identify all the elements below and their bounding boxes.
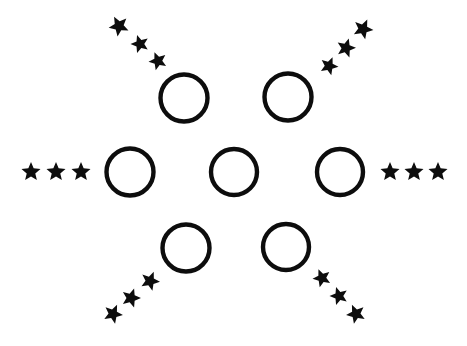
star-icon <box>119 286 143 309</box>
star-trail-lower-right <box>310 266 368 325</box>
star-icon <box>343 301 368 325</box>
circle-mid-left <box>107 149 154 196</box>
star-icon <box>318 54 341 77</box>
circles-layer <box>107 74 364 272</box>
stars-layer <box>21 12 447 325</box>
star-icon <box>404 162 423 180</box>
star-trail-left <box>21 162 90 180</box>
circle-top-right <box>265 74 312 121</box>
star-icon <box>46 162 65 180</box>
star-icon <box>327 284 350 306</box>
star-icon <box>105 12 132 38</box>
star-trail-right <box>380 162 447 180</box>
star-icon <box>101 301 126 325</box>
star-icon <box>428 162 447 180</box>
circle-center <box>211 149 257 195</box>
star-trail-upper-left <box>105 12 169 71</box>
circle-mid-right <box>317 149 363 195</box>
star-icon <box>71 162 90 180</box>
star-icon <box>380 162 399 180</box>
star-icon <box>350 15 376 40</box>
star-trail-upper-right <box>318 15 377 76</box>
figure-svg <box>0 0 467 346</box>
star-icon <box>146 49 169 72</box>
star-icon <box>21 162 40 180</box>
figure-canvas <box>0 0 467 346</box>
circle-top-left <box>161 75 208 122</box>
star-icon <box>335 36 358 59</box>
star-icon <box>128 32 151 54</box>
circle-bottom-right <box>263 224 309 270</box>
circle-bottom-left <box>163 225 210 272</box>
star-icon <box>138 268 162 292</box>
star-icon <box>310 266 333 289</box>
star-trail-lower-left <box>101 268 163 325</box>
